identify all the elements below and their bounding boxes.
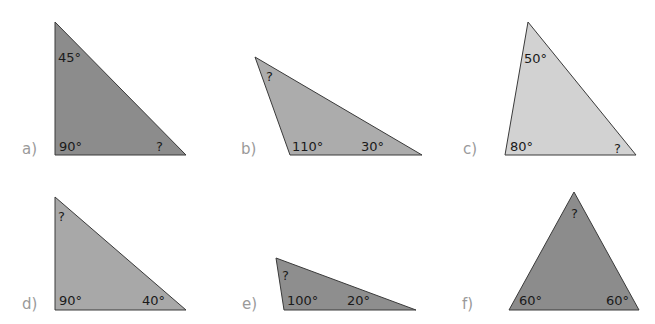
triangle-a-angle-bottom-left: 90°: [59, 139, 82, 154]
triangle-b-angle-bottom-left: 110°: [292, 139, 323, 154]
triangle-a-angle-bottom-right: ?: [156, 139, 163, 154]
triangle-e-angle-bottom-right: 20°: [347, 293, 370, 308]
triangle-e: e) ? 100° 20°: [242, 258, 416, 313]
triangles-diagram: a) 45° 90° ? b) ? 110° 30° c) 50° 80° ? …: [0, 0, 655, 324]
triangle-d-angle-bottom-left: 90°: [59, 293, 82, 308]
triangle-c-label: c): [463, 140, 477, 158]
triangle-d-label: d): [22, 295, 37, 313]
triangle-c-angle-bottom-right: ?: [614, 141, 621, 156]
triangle-b-angle-bottom-right: 30°: [361, 139, 384, 154]
triangle-c-angle-top: 50°: [524, 51, 547, 66]
triangle-a-shape: [55, 22, 186, 155]
triangle-f: f) ? 60° 60°: [462, 192, 639, 313]
triangle-a-angle-top: 45°: [58, 50, 81, 65]
triangle-c-angle-bottom-left: 80°: [510, 139, 533, 154]
triangle-b-angle-top: ?: [266, 69, 273, 84]
triangle-d: d) ? 90° 40°: [22, 197, 186, 313]
triangle-f-angle-bottom-left: 60°: [519, 293, 542, 308]
triangle-e-angle-bottom-left: 100°: [287, 293, 318, 308]
triangle-e-angle-top: ?: [282, 268, 289, 283]
triangle-d-angle-top: ?: [58, 209, 65, 224]
triangle-c: c) 50° 80° ?: [463, 22, 636, 158]
triangle-f-angle-bottom-right: 60°: [606, 293, 629, 308]
triangle-d-angle-bottom-right: 40°: [142, 293, 165, 308]
triangle-e-label: e): [242, 295, 257, 313]
triangle-c-shape: [505, 22, 636, 155]
triangle-b-label: b): [241, 140, 256, 158]
triangle-b-shape: [255, 57, 422, 155]
triangle-f-label: f): [462, 295, 473, 313]
triangle-a-label: a): [22, 140, 37, 158]
triangle-b: b) ? 110° 30°: [241, 57, 422, 158]
triangle-f-angle-top: ?: [571, 206, 578, 221]
triangle-a: a) 45° 90° ?: [22, 22, 186, 158]
